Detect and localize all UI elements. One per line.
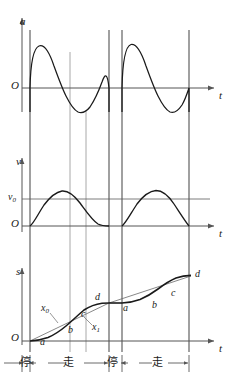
- point-label-d-1: d: [95, 292, 100, 302]
- chord-x1-label: x1: [92, 322, 100, 334]
- chord-x1-line: [109, 276, 191, 303]
- chord-x0-label: x0: [41, 303, 49, 315]
- acceleration-axis-label: a: [20, 16, 26, 27]
- displacement-time-axis-label: t: [219, 343, 222, 354]
- velocity-curve-cycle2: [122, 191, 189, 227]
- panel-velocity: [22, 158, 214, 232]
- phase-label-go-1: 走: [63, 357, 74, 368]
- velocity-axis-label: v: [16, 156, 21, 167]
- velocity-v0-tick-label: v0: [8, 192, 16, 204]
- velocity-curve-cycle1: [30, 191, 109, 226]
- acceleration-curve-cycle1: [30, 46, 109, 113]
- point-label-b-2: b: [152, 300, 157, 310]
- point-label-a-2: a: [123, 303, 128, 313]
- acceleration-time-axis-label: t: [219, 90, 222, 101]
- panel-acceleration: [22, 18, 214, 113]
- velocity-origin-label: O: [11, 218, 19, 229]
- point-label-a-1: a: [40, 337, 45, 347]
- point-label-d-2: d: [195, 269, 200, 279]
- displacement-origin-label: O: [11, 332, 19, 343]
- x0-leader-line: [50, 313, 58, 323]
- point-label-c-1: c: [81, 309, 85, 319]
- panel-displacement: [22, 268, 214, 345]
- acceleration-origin-label: O: [11, 80, 19, 91]
- displacement-axis-label: s: [16, 266, 20, 277]
- velocity-time-axis-label: t: [219, 228, 222, 239]
- acceleration-curve-cycle2: [122, 44, 189, 112]
- point-label-b-1: b: [68, 325, 73, 335]
- phase-label-stop-1: 停: [20, 357, 31, 368]
- figure-canvas: [0, 0, 243, 377]
- point-label-c-2: c: [171, 288, 175, 298]
- phase-label-go-2: 走: [152, 357, 163, 368]
- phase-label-stop-2: 停: [107, 357, 118, 368]
- physics-three-panel-figure: a O t v O t v0 s O t x0 x1 a b c d a b c…: [0, 0, 243, 377]
